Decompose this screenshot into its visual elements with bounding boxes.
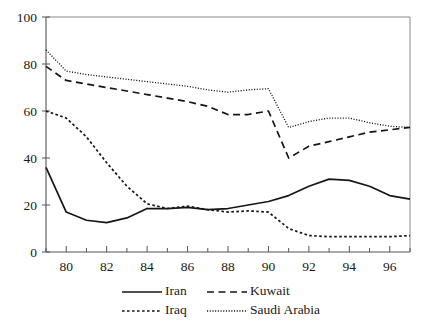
series-line-saudi-arabia (46, 50, 410, 128)
y-tick-label: 40 (24, 151, 38, 166)
legend-label-kuwait: Kuwait (250, 283, 290, 298)
x-tick-label: 86 (181, 259, 195, 274)
y-tick-label: 20 (24, 198, 38, 213)
chart-container: 020406080100 808284868890929496 IranKuwa… (0, 0, 435, 328)
y-tick-label: 60 (24, 104, 38, 119)
legend-label-iraq: Iraq (165, 302, 187, 317)
line-chart: 020406080100 808284868890929496 IranKuwa… (0, 0, 435, 328)
legend-label-saudi-arabia: Saudi Arabia (250, 302, 320, 317)
legend-label-iran: Iran (165, 283, 187, 298)
x-tick-label: 82 (100, 259, 114, 274)
plot-frame (46, 17, 410, 252)
chart-legend: IranKuwaitIraqSaudi Arabia (122, 283, 320, 317)
x-tick-label: 84 (140, 259, 154, 274)
series-line-kuwait (46, 66, 410, 158)
x-axis-tick-labels: 808284868890929496 (59, 259, 396, 274)
axis-ticks (42, 17, 410, 252)
series-line-iraq (46, 111, 410, 237)
x-tick-label: 80 (59, 259, 73, 274)
x-tick-label: 90 (262, 259, 276, 274)
data-series-group (46, 50, 410, 237)
y-tick-label: 80 (24, 57, 38, 72)
x-tick-label: 94 (343, 259, 357, 274)
x-tick-label: 88 (221, 259, 235, 274)
x-tick-label: 92 (302, 259, 316, 274)
y-tick-label: 100 (17, 10, 38, 25)
y-axis-tick-labels: 020406080100 (17, 10, 38, 260)
series-line-iran (46, 167, 410, 222)
x-tick-label: 96 (383, 259, 397, 274)
y-tick-label: 0 (30, 245, 37, 260)
